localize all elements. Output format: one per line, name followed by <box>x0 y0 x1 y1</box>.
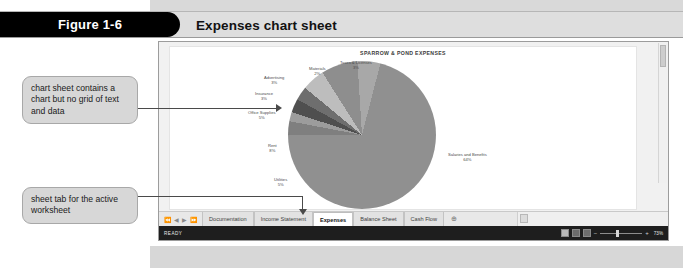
add-sheet-icon[interactable]: ⊕ <box>444 212 464 226</box>
chart-sheet-canvas: SPARROW & POND EXPENSES Taxes & Licenses… <box>159 42 668 212</box>
pie-label-insurance: Insurance3% <box>255 91 273 101</box>
callout-1-leader-line <box>138 108 276 109</box>
callout-chart-sheet-description: chart sheet contains a chart but no grid… <box>22 76 138 124</box>
callout-2-leader-horizontal <box>138 196 303 197</box>
pie-chart[interactable] <box>288 61 436 209</box>
pie-label-taxes-licenses: Taxes & Licenses3% <box>340 60 372 70</box>
normal-view-icon[interactable] <box>561 229 569 237</box>
callout-2-leader-vertical <box>302 196 303 210</box>
pie-slices <box>288 61 436 209</box>
chart-object[interactable]: SPARROW & POND EXPENSES Taxes & Licenses… <box>169 46 637 210</box>
next-sheet-icon[interactable]: ▶ <box>182 216 187 223</box>
page-bottom-left-white <box>0 246 150 268</box>
figure-page: Figure 1-6 Expenses chart sheet SPARROW … <box>0 0 683 268</box>
chart-title: SPARROW & POND EXPENSES <box>170 50 636 56</box>
horizontal-scrollbar-left-button[interactable] <box>520 214 528 223</box>
pie-label-salaries-benefits: Salaries and Benefits64% <box>448 152 487 162</box>
vertical-scrollbar[interactable] <box>658 43 667 183</box>
sheet-nav-buttons[interactable]: ⏪ ◀ ▶ ⏩ <box>159 212 202 226</box>
pie-label-office-supplies: Office Supplies5% <box>248 110 275 120</box>
page-layout-view-icon[interactable] <box>572 229 580 237</box>
first-sheet-icon[interactable]: ⏪ <box>164 216 171 223</box>
status-mode: READY <box>159 231 182 236</box>
excel-window: SPARROW & POND EXPENSES Taxes & Licenses… <box>158 41 669 241</box>
vertical-scrollbar-thumb[interactable] <box>660 45 666 67</box>
pie-label-utilities: Utilities5% <box>274 177 287 187</box>
page-bottom-shade <box>150 246 683 268</box>
pie-label-rent: Rent8% <box>268 143 277 153</box>
figure-caption: Expenses chart sheet <box>196 13 337 37</box>
callout-1-arrow-icon <box>276 104 282 112</box>
figure-number-badge: Figure 1-6 <box>0 12 180 37</box>
sheet-tab-expenses[interactable]: Expenses <box>313 212 353 226</box>
zoom-in-icon[interactable]: + <box>645 230 649 236</box>
page-break-preview-icon[interactable] <box>583 229 591 237</box>
callout-sheet-tab-description: sheet tab for the active worksheet <box>22 187 138 224</box>
header-rule-bottom <box>0 37 683 38</box>
pie-label-materials: Materials2% <box>309 66 326 76</box>
horizontal-scrollbar[interactable] <box>517 212 668 226</box>
callout-2-arrow-icon <box>299 209 307 215</box>
zoom-out-icon[interactable]: − <box>594 230 598 236</box>
tab-bar-spacer <box>464 212 517 226</box>
prev-sheet-icon[interactable]: ◀ <box>174 216 179 223</box>
sheet-tab-documentation[interactable]: Documentation <box>202 212 254 226</box>
zoom-slider-thumb[interactable] <box>616 230 619 237</box>
sheet-tab-bar: ⏪ ◀ ▶ ⏩ Documentation Income Statement E… <box>159 211 668 226</box>
last-sheet-icon[interactable]: ⏩ <box>190 216 197 223</box>
status-bar-right: − + 73% <box>561 229 668 237</box>
status-bar: READY − + 73% <box>159 226 668 240</box>
pie-label-advertising: Advertising3% <box>264 75 284 85</box>
zoom-slider[interactable] <box>600 233 642 234</box>
sheet-tab-cash-flow[interactable]: Cash Flow <box>404 212 444 226</box>
sheet-tab-balance-sheet[interactable]: Balance Sheet <box>353 212 403 226</box>
zoom-level[interactable]: 73% <box>652 231 663 236</box>
